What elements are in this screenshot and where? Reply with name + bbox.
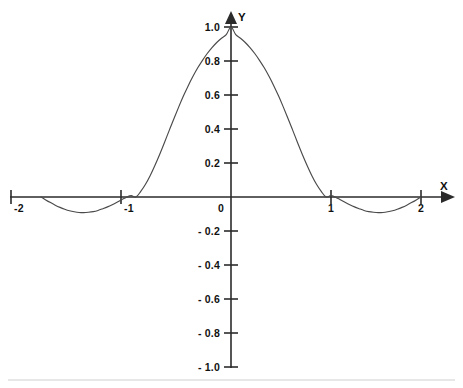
x-tick-label-1: 1 <box>328 202 334 214</box>
y-tick-label--1.0: - 1.0 <box>198 361 220 373</box>
chart-figure: -2 -1 1 2 0 1.0 0.8 0.6 0.4 0.2 - 0.2 - … <box>0 0 463 388</box>
y-tick-label-0.8: 0.8 <box>205 55 220 67</box>
origin-label: 0 <box>218 202 224 214</box>
x-tick-label--2: -2 <box>14 202 24 214</box>
y-tick-label--0.2: - 0.2 <box>198 225 220 237</box>
y-tick-label--0.6: - 0.6 <box>198 293 220 305</box>
x-tick-label--1: -1 <box>124 202 134 214</box>
x-axis-label: X <box>440 180 448 192</box>
y-tick-label-0.4: 0.4 <box>205 123 220 135</box>
y-tick-label--0.8: - 0.8 <box>198 327 220 339</box>
y-tick-label-0.6: 0.6 <box>205 89 220 101</box>
y-tick-label-1.0: 1.0 <box>205 21 220 33</box>
y-tick-label-0.2: 0.2 <box>205 157 220 169</box>
function-plot-svg: -2 -1 1 2 0 1.0 0.8 0.6 0.4 0.2 - 0.2 - … <box>0 0 463 388</box>
y-tick-label--0.4: - 0.4 <box>198 259 220 271</box>
x-tick-label-2: 2 <box>418 202 424 214</box>
y-axis-label: Y <box>238 11 246 23</box>
